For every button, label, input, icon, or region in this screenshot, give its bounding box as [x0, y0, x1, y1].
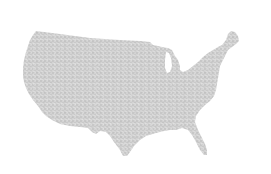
us-map: [0, 0, 271, 174]
us-map-svg: [0, 0, 271, 174]
us-landmass: [23, 31, 239, 156]
us-stipple-overlay: [23, 31, 239, 156]
